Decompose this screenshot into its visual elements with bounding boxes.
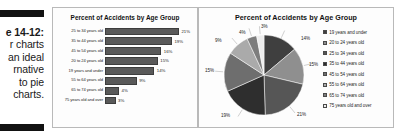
legend-label: 65 to 74 years old (329, 93, 364, 98)
pie-leader-line (215, 71, 223, 72)
bar-track: 16% (105, 47, 193, 55)
bar-value-label: 3% (118, 98, 124, 103)
legend-item: 35 to 44 years old (323, 59, 389, 70)
legend-item: 75 years old and over (323, 101, 389, 112)
bar-category-label: 25 to 34 years old (56, 28, 103, 33)
caption-line-3: rnative (0, 63, 44, 75)
pie-value-label: 9% (215, 38, 222, 43)
bar-chart-panel: Percent of Accidents by Age Group 25 to … (52, 7, 198, 128)
bar-fill (105, 28, 179, 36)
legend-label: 75 years old and over (329, 103, 371, 108)
bar-fill (105, 67, 154, 75)
bar-value-label: 9% (139, 78, 145, 83)
bar-fill (105, 37, 172, 45)
bar-chart-title: Percent of Accidents by Age Group (53, 14, 197, 21)
legend-swatch-icon (323, 30, 327, 34)
bar-category-label: 75 years old and over (56, 97, 103, 102)
pie-value-label: 3% (261, 24, 268, 29)
caption-rule-top (0, 10, 44, 17)
pie-chart-panel: Percent of Accidents by Age Group 3%14%1… (198, 7, 394, 128)
pie-value-label: 14% (301, 36, 310, 41)
legend-label: 20 to 24 years old (329, 40, 364, 45)
pie-leader-line (238, 110, 242, 117)
legend-item: 55 to 64 years old (323, 80, 389, 91)
caption-line-1: r charts (0, 38, 44, 50)
legend-label: 35 to 44 years old (329, 61, 364, 66)
pie-value-label: 15% (309, 62, 318, 67)
legend-label: 25 to 34 years old (329, 51, 364, 56)
bar-value-label: 15% (160, 58, 169, 63)
bar-track: 21% (105, 28, 193, 36)
pie-value-label: 15% (205, 68, 214, 73)
pie-leader-line (290, 107, 295, 113)
pie-chart-title: Percent of Accidents by Age Group (199, 13, 393, 22)
legend-item: 25 to 34 years old (323, 48, 389, 59)
legend-label: 45 to 54 years old (329, 72, 364, 77)
legend-swatch-icon (323, 51, 327, 55)
pie-leader-line (232, 38, 237, 44)
caption-line-5: charts. (0, 88, 44, 100)
bar-chart-row: 19 years and under14% (56, 67, 196, 77)
legend-swatch-icon (323, 62, 327, 66)
bar-fill (105, 47, 161, 55)
bar-category-label: 45 to 54 years old (56, 48, 103, 53)
pie-chart-plot-area: 3%14%15%21%19%15%9%4% (205, 24, 323, 126)
bar-track: 19% (105, 37, 193, 45)
caption-rule-bottom (0, 124, 44, 131)
bar-value-label: 16% (164, 49, 173, 54)
bar-value-label: 19% (174, 39, 183, 44)
legend-item: 20 to 24 years old (323, 38, 389, 49)
caption-line-4: to pie (0, 76, 44, 88)
pie-value-label: 4% (239, 30, 246, 35)
legend-item: 19 years and under (323, 27, 389, 38)
bar-value-label: 14% (157, 68, 166, 73)
caption-line-2: an ideal (0, 51, 44, 63)
bar-fill (105, 77, 137, 85)
pie-chart-legend: 19 years and under20 to 24 years old25 t… (323, 27, 389, 111)
pie-value-label: 21% (297, 112, 306, 117)
legend-swatch-icon (323, 72, 327, 76)
pie-value-label: 19% (221, 113, 230, 118)
bar-chart-row: 45 to 54 years old16% (56, 47, 196, 57)
legend-label: 55 to 64 years old (329, 82, 364, 87)
caption-column: e 14-12: r charts an ideal rnative to pi… (0, 0, 44, 135)
bar-fill (105, 87, 119, 95)
legend-swatch-icon (323, 41, 327, 45)
bar-track: 14% (105, 67, 193, 75)
bar-category-label: 20 to 24 years old (56, 58, 103, 63)
figure-caption: e 14-12: r charts an ideal rnative to pi… (0, 26, 44, 100)
bar-category-label: 35 to 44 years old (56, 38, 103, 43)
bar-track: 9% (105, 77, 193, 85)
bar-chart-row: 75 years old and over3% (56, 96, 196, 106)
bar-chart-row: 20 to 24 years old15% (56, 57, 196, 67)
bar-chart-row: 65 to 74 years old4% (56, 86, 196, 96)
legend-swatch-icon (323, 83, 327, 87)
bar-value-label: 21% (181, 29, 190, 34)
bar-category-label: 19 years and under (56, 68, 103, 73)
bar-track: 15% (105, 57, 193, 65)
bar-category-label: 65 to 74 years old (56, 87, 103, 92)
bar-category-label: 55 to 64 years old (56, 77, 103, 82)
bar-chart-row: 35 to 44 years old19% (56, 37, 196, 47)
pie-leader-line (249, 28, 251, 36)
bar-fill (105, 97, 116, 105)
legend-swatch-icon (323, 93, 327, 97)
legend-swatch-icon (323, 104, 327, 108)
legend-item: 45 to 54 years old (323, 69, 389, 80)
legend-label: 19 years and under (329, 30, 367, 35)
legend-item: 65 to 74 years old (323, 90, 389, 101)
pie-leader-line (281, 31, 284, 38)
bar-value-label: 4% (122, 88, 128, 93)
bar-chart-row: 55 to 64 years old9% (56, 76, 196, 86)
bar-track: 3% (105, 97, 193, 105)
figure-container: e 14-12: r charts an ideal rnative to pi… (0, 0, 394, 135)
bar-track: 4% (105, 87, 193, 95)
figure-number: e 14-12: (0, 26, 44, 38)
bar-chart-row: 25 to 34 years old21% (56, 27, 196, 37)
bar-chart-plot-area: 25 to 34 years old21%35 to 44 years old1… (56, 27, 196, 107)
bar-fill (105, 57, 158, 65)
